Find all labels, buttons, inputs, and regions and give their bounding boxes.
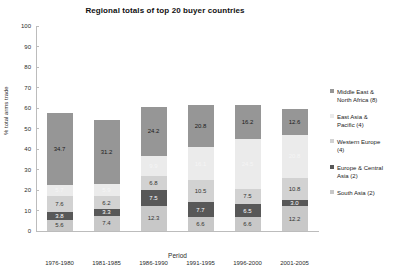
x-axis-label: Period [36, 252, 319, 259]
legend-item[interactable]: East Asia &Pacific (4) [330, 113, 407, 129]
bar-segment[interactable]: 6.6 [188, 217, 214, 231]
bar-segment-value: 7.4 [102, 220, 110, 226]
legend-swatch-icon [330, 165, 334, 169]
y-axis-tick: 100 [21, 23, 36, 29]
y-axis-label: % total arms trade [3, 86, 9, 135]
legend-swatch-icon [330, 89, 334, 93]
bar-segment-value: 6.2 [102, 200, 110, 206]
y-axis-tick: 70 [24, 85, 36, 91]
bar-segment-value: 31.2 [101, 149, 113, 155]
y-axis-tickmark [36, 190, 39, 191]
y-axis-tick: 60 [24, 105, 36, 111]
bar-segment-value: 10.8 [289, 186, 301, 192]
bar-segment-value: 5.9 [102, 187, 110, 193]
bar-segment[interactable]: 7.5 [141, 190, 167, 205]
bar-stack[interactable]: 5.63.87.65.734.7 [47, 113, 73, 231]
bar-segment[interactable]: 5.7 [47, 185, 73, 197]
legend-label: Middle East &North Africa (8) [337, 88, 377, 104]
bar-segment-value: 5.6 [55, 222, 63, 228]
bar-stack[interactable]: 12.37.56.89.924.2 [141, 107, 167, 231]
bar-segment-value: 3.8 [55, 213, 63, 219]
bar-segment[interactable]: 20.8 [188, 105, 214, 148]
legend-swatch-icon [330, 190, 334, 194]
y-axis-tickmark [36, 87, 39, 88]
bar-segment[interactable]: 7.4 [94, 216, 120, 231]
legend-swatch-icon [330, 139, 334, 143]
legend-item[interactable]: Europe & CentralAsia (2) [330, 164, 407, 180]
bar-stack[interactable]: 6.66.57.524.516.2 [235, 105, 261, 231]
bar-segment[interactable]: 12.3 [141, 206, 167, 231]
bar-segment[interactable]: 3.3 [94, 209, 120, 216]
bar-segment-value: 20.8 [195, 123, 207, 129]
bar-segment-value: 3.3 [102, 209, 110, 215]
bar-stack[interactable]: 12.23.010.820.812.6 [282, 109, 308, 231]
bar-segment[interactable]: 5.6 [47, 220, 73, 231]
bar-segment[interactable]: 7.5 [235, 189, 261, 204]
bar-segment[interactable]: 3.8 [47, 212, 73, 220]
y-axis-tick: 30 [24, 167, 36, 173]
bar-segment[interactable]: 6.8 [141, 176, 167, 190]
x-axis-line [36, 231, 319, 232]
bar-segment[interactable]: 24.5 [235, 139, 261, 189]
bar-segment-value: 12.3 [148, 215, 160, 221]
x-axis-tick: 1996-2000 [224, 260, 271, 266]
bar-segment-value: 16.1 [195, 161, 207, 167]
bar-segment-value: 7.6 [55, 201, 63, 207]
y-axis-tickmark [36, 26, 39, 27]
bar-stack[interactable]: 7.43.36.25.931.2 [94, 120, 120, 231]
y-axis-tickmark [36, 108, 39, 109]
legend-label: Western Europe(4) [337, 138, 380, 154]
bar-segment[interactable]: 6.5 [235, 204, 261, 217]
bar-segment-value: 6.5 [243, 208, 251, 214]
legend-label: East Asia &Pacific (4) [337, 113, 368, 129]
bar-segment-value: 7.5 [149, 195, 157, 201]
bar-segment-value: 12.6 [289, 119, 301, 125]
legend-item[interactable]: South Asia (2) [330, 189, 407, 197]
y-axis-tick: 10 [24, 208, 36, 214]
bar-segment-value: 6.6 [243, 221, 251, 227]
bar-segment-value: 16.2 [242, 119, 254, 125]
bar-stack[interactable]: 6.67.710.516.120.8 [188, 105, 214, 231]
bar-segment[interactable]: 6.6 [235, 217, 261, 231]
bar-segment-value: 24.2 [148, 128, 160, 134]
y-axis-tickmark [36, 210, 39, 211]
bar-segment-value: 9.9 [149, 163, 157, 169]
bar-segment[interactable]: 24.2 [141, 107, 167, 157]
y-axis-tickmark [36, 231, 39, 232]
bar-segment-value: 6.6 [196, 221, 204, 227]
bar-segment[interactable]: 20.8 [282, 135, 308, 178]
bar-segment[interactable]: 16.1 [188, 147, 214, 180]
bar-segment[interactable]: 16.2 [235, 105, 261, 138]
bar-segment-value: 3.0 [290, 200, 298, 206]
bar-segment[interactable]: 10.8 [282, 178, 308, 200]
y-axis-tick: 20 [24, 187, 36, 193]
bar-segment[interactable]: 12.6 [282, 109, 308, 135]
legend-label: Europe & CentralAsia (2) [337, 164, 383, 180]
bar-segment[interactable]: 3.0 [282, 200, 308, 206]
bar-segment-value: 34.7 [54, 146, 66, 152]
bar-segment[interactable]: 10.5 [188, 180, 214, 202]
x-axis-tick: 1976-1980 [36, 260, 83, 266]
chart-legend: Middle East &North Africa (8)East Asia &… [330, 88, 407, 206]
legend-swatch-icon [330, 114, 334, 118]
y-axis-tickmark [36, 46, 39, 47]
legend-item[interactable]: Middle East &North Africa (8) [330, 88, 407, 104]
bar-segment[interactable]: 12.2 [282, 206, 308, 231]
legend-item[interactable]: Western Europe(4) [330, 138, 407, 154]
bar-segment[interactable]: 34.7 [47, 113, 73, 184]
bar-segment[interactable]: 9.9 [141, 156, 167, 176]
bar-segment-value: 10.5 [195, 188, 207, 194]
x-axis-tick: 2001-2005 [271, 260, 318, 266]
bar-segment-value: 6.8 [149, 180, 157, 186]
chart-container: Regional totals of top 20 buyer countrie… [0, 0, 407, 268]
bar-segment[interactable]: 7.6 [47, 196, 73, 212]
bar-segment[interactable]: 5.9 [94, 184, 120, 196]
bar-segment[interactable]: 7.7 [188, 202, 214, 218]
y-axis-tick: 50 [24, 126, 36, 132]
y-axis-tickmark [36, 149, 39, 150]
bar-segment[interactable]: 6.2 [94, 196, 120, 209]
bar-segment[interactable]: 31.2 [94, 120, 120, 184]
y-axis-tickmark [36, 169, 39, 170]
bar-segment-value: 24.5 [242, 161, 254, 167]
chart-title: Regional totals of top 20 buyer countrie… [0, 6, 330, 15]
